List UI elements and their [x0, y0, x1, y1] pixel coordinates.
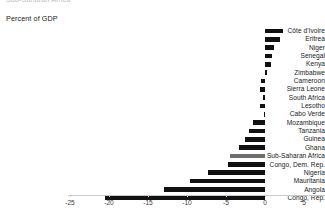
chart-row: Ghana [0, 144, 325, 152]
bar [265, 45, 274, 50]
bar [265, 37, 280, 42]
bar [245, 137, 265, 142]
bar [249, 129, 265, 134]
x-axis-tick [226, 195, 227, 198]
chart-row: Cameroon [0, 77, 325, 85]
chart-row: Mauritania [0, 177, 325, 185]
chart-row: Tanzania [0, 127, 325, 135]
x-axis-tick [265, 195, 266, 198]
bar-track [140, 85, 325, 93]
bar [253, 120, 265, 125]
chart-row: Mozambique [0, 119, 325, 127]
bar-track [140, 35, 325, 43]
bar [230, 154, 265, 159]
bar-track [140, 152, 325, 160]
x-axis-tick [187, 195, 188, 198]
bar [265, 70, 267, 75]
x-axis-tick-label: 5 [302, 199, 306, 206]
x-axis-tick-label: -20 [104, 199, 114, 206]
chart-container: Sub-Saharan Africa Percent of GDP Côte d… [0, 0, 325, 219]
bar-track [140, 177, 325, 185]
bar [228, 162, 265, 167]
chart-row: South Africa [0, 94, 325, 102]
chart-axis-title: Percent of GDP [6, 14, 58, 23]
chart-row: Niger [0, 44, 325, 52]
bar [265, 62, 271, 67]
chart-row: Sierra Leone [0, 85, 325, 93]
bar-track [140, 94, 325, 102]
bar-track [140, 102, 325, 110]
x-axis-tick [70, 195, 71, 198]
bar [164, 187, 265, 192]
plot-area: Côte d'IvoireEritreaNigerSenegalKenyaZim… [0, 27, 325, 195]
bar-track [140, 69, 325, 77]
x-axis-tick [304, 195, 305, 198]
bar-track [140, 127, 325, 135]
clipped-header-text: Sub-Saharan Africa [6, 0, 206, 4]
bar [265, 54, 272, 59]
chart-row: Congo, Dem. Rep. [0, 161, 325, 169]
x-axis-tick-label: 0 [263, 199, 267, 206]
bar [260, 104, 265, 109]
bar [261, 79, 265, 84]
x-axis-tick [148, 195, 149, 198]
chart-row: Nigeria [0, 169, 325, 177]
x-axis-tick [109, 195, 110, 198]
x-axis-tick-label: -15 [143, 199, 153, 206]
chart-row: Guinea [0, 135, 325, 143]
bar-track [140, 144, 325, 152]
bar-track [140, 119, 325, 127]
chart-row: Cabo Verde [0, 110, 325, 118]
x-axis-tick-label: -10 [182, 199, 192, 206]
bar-track [140, 161, 325, 169]
chart-row: Zimbabwe [0, 69, 325, 77]
bar [239, 145, 265, 150]
bar [208, 170, 265, 175]
bar-track [140, 27, 325, 35]
x-axis-tick-label: -25 [65, 199, 75, 206]
bar-track [140, 169, 325, 177]
bar-track [140, 77, 325, 85]
chart-row: Angola [0, 186, 325, 194]
bar [263, 95, 265, 100]
x-axis: -25-20-15-10-505 [140, 195, 325, 196]
bar-track [140, 44, 325, 52]
bar-track [140, 135, 325, 143]
chart-row: Kenya [0, 60, 325, 68]
bar [265, 29, 283, 34]
chart-row: Lesotho [0, 102, 325, 110]
chart-row: Eritrea [0, 35, 325, 43]
x-axis-tick-label: -5 [223, 199, 229, 206]
bar [190, 179, 265, 184]
chart-row: Sub-Saharan Africa [0, 152, 325, 160]
chart-row: Côte d'Ivoire [0, 27, 325, 35]
x-axis-line [68, 195, 325, 196]
bar [264, 112, 265, 117]
bar-track [140, 60, 325, 68]
bar-track [140, 52, 325, 60]
bar-track [140, 110, 325, 118]
chart-row: Senegal [0, 52, 325, 60]
bar [260, 87, 265, 92]
bar-track [140, 186, 325, 194]
